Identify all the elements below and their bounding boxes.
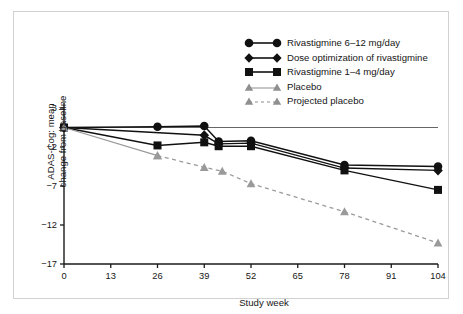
x-tick-label-7: 91 xyxy=(386,271,396,281)
x-tick-label-0: 0 xyxy=(61,271,66,281)
y-axis-title-line2: change from baseline xyxy=(56,67,68,217)
data-point-0-2 xyxy=(200,122,209,131)
figure-border: 3−2−7−12−17013263952657891104 ADAS-Cog: … xyxy=(13,11,449,299)
y-axis-title-line1: ADAS-Cog: mean xyxy=(45,67,57,217)
y-axis-title: ADAS-Cog: mean change from baseline xyxy=(45,67,68,217)
legend-marker-diamond-icon xyxy=(242,51,284,65)
legend-item-rivastigmine-6-12[interactable]: Rivastigmine 6–12 mg/day xyxy=(242,36,463,51)
data-point-2-6 xyxy=(434,186,442,194)
legend-label-2: Rivastigmine 1–4 mg/day xyxy=(287,67,395,77)
x-tick-label-5: 65 xyxy=(293,271,303,281)
x-tick-label-4: 52 xyxy=(246,271,256,281)
data-point-0-1 xyxy=(153,122,162,131)
y-tick-label-3: −12 xyxy=(41,220,57,230)
x-axis-title: Study week xyxy=(114,297,414,308)
data-point-4-3 xyxy=(247,179,256,187)
legend-marker-triangle-icon xyxy=(242,80,284,94)
data-point-2-2 xyxy=(200,138,208,146)
legend-item-projected-placebo[interactable]: Projected placebo xyxy=(242,94,463,109)
legend-marker-square-icon xyxy=(242,65,284,79)
x-tick-label-8: 104 xyxy=(430,271,446,281)
data-point-2-3 xyxy=(215,142,223,150)
data-point-4-5 xyxy=(434,239,443,247)
figure-canvas: 3−2−7−12−17013263952657891104 ADAS-Cog: … xyxy=(0,0,463,314)
legend-item-rivastigmine-1-4[interactable]: Rivastigmine 1–4 mg/day xyxy=(242,65,463,80)
y-tick-label-4: −17 xyxy=(41,259,57,269)
legend-marker-triangle-dashed-icon xyxy=(242,94,284,108)
legend-label-0: Rivastigmine 6–12 mg/day xyxy=(287,38,400,48)
legend-label-4: Projected placebo xyxy=(287,96,364,106)
data-point-2-5 xyxy=(341,166,349,174)
chart-legend: Rivastigmine 6–12 mg/day Dose optimizati… xyxy=(242,36,463,109)
x-tick-label-2: 26 xyxy=(152,271,162,281)
legend-marker-circle-icon xyxy=(242,36,284,50)
x-tick-label-1: 13 xyxy=(106,271,116,281)
x-tick-label-6: 78 xyxy=(339,271,349,281)
data-point-2-1 xyxy=(154,141,162,149)
legend-label-3: Placebo xyxy=(287,82,322,92)
data-point-2-4 xyxy=(247,142,255,150)
x-tick-label-3: 39 xyxy=(199,271,209,281)
legend-item-dose-optimization[interactable]: Dose optimization of rivastigmine xyxy=(242,51,463,66)
data-point-4-4 xyxy=(340,207,349,215)
legend-label-1: Dose optimization of rivastigmine xyxy=(287,53,428,63)
legend-item-placebo[interactable]: Placebo xyxy=(242,80,463,95)
